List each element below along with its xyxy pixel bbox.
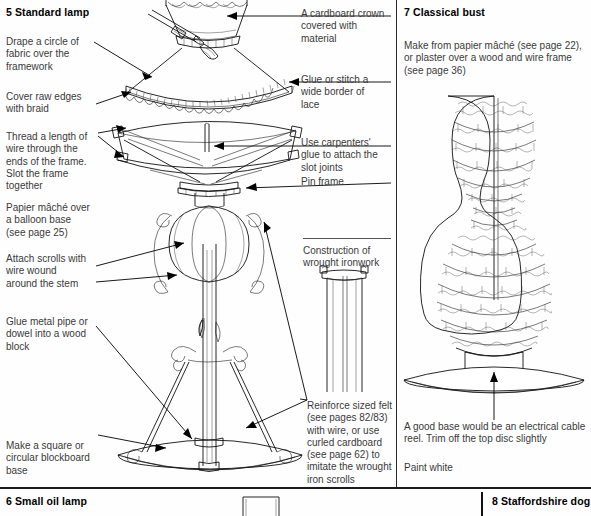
caption-blockboard-base: Make a square or circular blockboard bas… (6, 440, 114, 477)
caption-construction-ironwork: Construction of wrought ironwork (303, 245, 395, 270)
caption-reinforce-felt: Reinforce sized felt (see pages 82/83) w… (307, 400, 395, 486)
book-page: 5 Standard lamp Drape a circle of fabric… (0, 0, 591, 516)
lampshade-fabric-figure (125, 0, 294, 114)
caption-pin-frame: Pin frame (301, 176, 395, 188)
caption-cardboard-crown: A cardboard crown covered with material (301, 8, 393, 45)
caption-glue-metal-pipe: Glue metal pipe or dowel into a wood blo… (6, 316, 110, 353)
ironwork-section-rule (303, 238, 391, 239)
column-divider-vertical (396, 0, 397, 487)
caption-paint-white: Paint white (404, 462, 524, 474)
caption-thread-wire: Thread a length of wire through the ends… (6, 131, 110, 192)
section-divider-bottom (0, 487, 591, 489)
classical-bust-figure (404, 96, 584, 393)
wrought-ironwork-figure (320, 266, 368, 392)
caption-glue-or-stitch: Glue or stitch a wide border of lace (301, 74, 393, 111)
caption-drape-circle: Drape a circle of fabric over the framew… (6, 36, 106, 73)
leader-lines (94, 12, 498, 452)
panel-7-heading: 7 Classical bust (404, 6, 485, 18)
panel-6-heading: 6 Small oil lamp (6, 495, 87, 507)
caption-papier-mache-balloon: Papier mâché over a balloon base (see pa… (6, 202, 110, 239)
caption-cover-raw-edges: Cover raw edges with braid (6, 91, 106, 116)
panel-5-heading: 5 Standard lamp (6, 6, 89, 18)
panel-8-heading: 8 Staffordshire dog (492, 495, 590, 507)
oil-lamp-figure (243, 497, 279, 516)
caption-make-from-papier-mache: Make from papier mâché (see page 22), or… (404, 40, 589, 77)
bottom-column-divider (481, 492, 483, 516)
caption-carpenters-glue: Use carpenters' glue to attach the slot … (301, 137, 395, 174)
caption-attach-scrolls: Attach scrolls with wire wound around th… (6, 253, 110, 290)
caption-good-base: A good base would be an electrical cable… (404, 421, 590, 446)
lamp-frame-figure (112, 121, 302, 471)
